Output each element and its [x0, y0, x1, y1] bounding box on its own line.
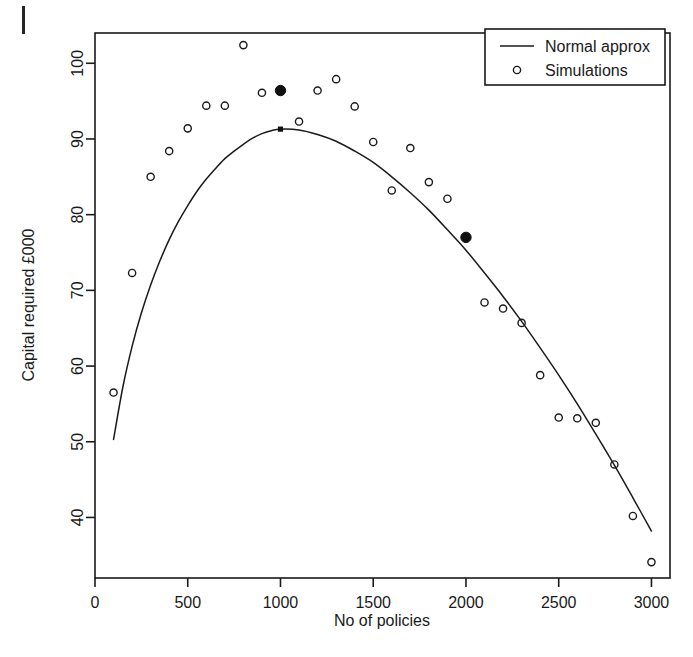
simulation-point [388, 187, 395, 194]
x-tick-label-3000: 3000 [634, 594, 670, 611]
simulation-point [444, 195, 451, 202]
simulation-point [407, 144, 414, 151]
simulation-points-group [110, 42, 655, 566]
y-tick-label-90: 90 [69, 130, 86, 148]
x-axis-title: No of policies [334, 612, 430, 629]
simulation-point [240, 42, 247, 49]
simulation-point [110, 389, 117, 396]
simulation-point [629, 512, 636, 519]
highlighted-point [275, 85, 285, 95]
y-tick-label-50: 50 [69, 433, 86, 451]
y-tick-label-60: 60 [69, 357, 86, 375]
simulation-point [258, 89, 265, 96]
x-tick-label-0: 0 [91, 594, 100, 611]
plot-frame [95, 33, 670, 578]
x-tick-label-500: 500 [174, 594, 201, 611]
simulation-point [555, 414, 562, 421]
chart-legend: Normal approx Simulations [485, 29, 665, 85]
x-tick-label-2500: 2500 [541, 594, 577, 611]
x-tick-label-1500: 1500 [355, 594, 391, 611]
legend-label-normal-approx: Normal approx [545, 38, 650, 55]
y-axis-title: Capital required £000 [20, 228, 37, 381]
curve-max-marker [278, 127, 283, 132]
simulation-point [481, 299, 488, 306]
x-tick-label-2000: 2000 [448, 594, 484, 611]
x-tick-label-1000: 1000 [263, 594, 299, 611]
simulation-point [537, 372, 544, 379]
simulation-point [370, 138, 377, 145]
y-tick-label-40: 40 [69, 508, 86, 526]
simulation-point [574, 415, 581, 422]
highlighted-point [461, 232, 471, 242]
simulation-point [166, 147, 173, 154]
scatter-chart: 050010001500200025003000 405060708090100… [0, 0, 693, 657]
highlighted-points-group [275, 85, 471, 242]
simulation-point [592, 419, 599, 426]
simulation-point [499, 305, 506, 312]
scan-artifact-mark [22, 6, 25, 34]
simulation-point [351, 103, 358, 110]
y-tick-label-70: 70 [69, 281, 86, 299]
simulation-point [147, 173, 154, 180]
y-tick-label-80: 80 [69, 206, 86, 224]
legend-label-simulations: Simulations [545, 62, 628, 79]
y-axis-tick-labels: 405060708090100 [69, 50, 86, 527]
simulation-point [203, 102, 210, 109]
curve-max-marker-group [278, 127, 283, 132]
figure-container: 050010001500200025003000 405060708090100… [0, 0, 693, 657]
simulation-point [314, 87, 321, 94]
x-axis-tick-labels: 050010001500200025003000 [91, 594, 670, 611]
y-tick-label-100: 100 [69, 50, 86, 77]
simulation-point [184, 125, 191, 132]
simulation-point [221, 102, 228, 109]
simulation-point [129, 269, 136, 276]
simulation-point [295, 118, 302, 125]
simulation-point [648, 559, 655, 566]
y-axis-ticks [86, 63, 95, 517]
x-axis-ticks [95, 578, 651, 587]
simulation-point [333, 76, 340, 83]
normal-approx-curve [114, 129, 652, 531]
simulation-point [425, 179, 432, 186]
